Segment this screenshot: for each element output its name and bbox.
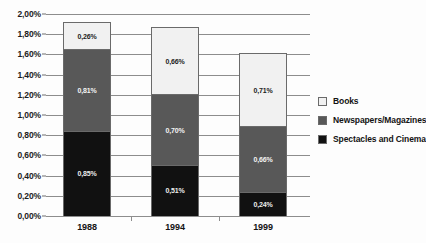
bar-segment-label: 0,71% <box>253 87 272 94</box>
y-tick-label: 0,00% <box>17 211 41 221</box>
legend-swatch-icon <box>318 135 327 144</box>
x-axis-line <box>46 216 310 217</box>
y-tick-mark <box>42 94 46 95</box>
y-tick-label: 1,00% <box>17 110 41 120</box>
x-axis-label: 1988 <box>77 222 97 232</box>
bar-segment[interactable]: 0,85% <box>64 131 110 216</box>
legend-label: Newspapers/Magazines <box>333 115 426 125</box>
y-tick-label: 1,20% <box>17 90 41 100</box>
y-tick-mark <box>42 115 46 116</box>
bar-segment-label: 0,26% <box>77 33 96 40</box>
bar-segment[interactable]: 0,51% <box>152 165 198 216</box>
bar-segment[interactable]: 0,81% <box>64 49 110 130</box>
y-tick-mark <box>42 14 46 15</box>
legend-item[interactable]: Books <box>318 96 426 106</box>
y-tick-mark <box>42 155 46 156</box>
bar-segment-label: 0,51% <box>165 187 184 194</box>
bar-1994[interactable]: 0,66%0,70%0,51% <box>151 27 199 216</box>
bar-segment[interactable]: 0,26% <box>64 23 110 49</box>
y-tick-label: 0,40% <box>17 171 41 181</box>
bar-segment[interactable]: 0,71% <box>240 54 286 125</box>
bar-segment-label: 0,24% <box>253 201 272 208</box>
bar-1999[interactable]: 0,71%0,66%0,24% <box>239 53 287 216</box>
y-tick-mark <box>42 135 46 136</box>
bar-segment-label: 0,85% <box>77 170 96 177</box>
y-tick-label: 1,80% <box>17 29 41 39</box>
bar-segment-label: 0,81% <box>77 87 96 94</box>
legend-swatch-icon <box>318 116 327 125</box>
bar-1988[interactable]: 0,26%0,81%0,85% <box>63 22 111 216</box>
y-tick-label: 0,80% <box>17 130 41 140</box>
legend-label: Books <box>333 96 358 106</box>
bar-segment[interactable]: 0,24% <box>240 192 286 216</box>
y-tick-mark <box>42 74 46 75</box>
legend-item[interactable]: Spectacles and Cinema <box>318 134 426 144</box>
legend-item[interactable]: Newspapers/Magazines <box>318 115 426 125</box>
y-tick-mark <box>42 175 46 176</box>
x-axis-label: 1994 <box>165 222 185 232</box>
bar-segment[interactable]: 0,66% <box>152 28 198 94</box>
y-tick-label: 1,60% <box>17 49 41 59</box>
gridline <box>46 14 310 15</box>
chart-title-fragment <box>108 0 308 5</box>
plot-area: 2,00%1,80%1,60%1,40%1,20%1,00%0,80%0,60%… <box>46 14 310 216</box>
bar-segment[interactable]: 0,70% <box>152 94 198 164</box>
x-tick-mark <box>219 216 220 221</box>
y-tick-mark <box>42 54 46 55</box>
chart-figure: 2,00%1,80%1,60%1,40%1,20%1,00%0,80%0,60%… <box>0 0 426 243</box>
y-tick-label: 0,60% <box>17 150 41 160</box>
y-tick-mark <box>42 195 46 196</box>
bar-segment-label: 0,66% <box>253 156 272 163</box>
chart-legend: BooksNewspapers/MagazinesSpectacles and … <box>318 96 426 144</box>
x-axis-label: 1999 <box>253 222 273 232</box>
bar-segment-label: 0,66% <box>165 58 184 65</box>
y-tick-label: 1,40% <box>17 70 41 80</box>
y-tick-label: 0,20% <box>17 191 41 201</box>
bar-segment-label: 0,70% <box>165 127 184 134</box>
legend-swatch-icon <box>318 97 327 106</box>
x-tick-mark <box>131 216 132 221</box>
legend-label: Spectacles and Cinema <box>333 134 426 144</box>
bar-segment[interactable]: 0,66% <box>240 126 286 192</box>
y-tick-label: 2,00% <box>17 9 41 19</box>
y-tick-mark <box>42 34 46 35</box>
